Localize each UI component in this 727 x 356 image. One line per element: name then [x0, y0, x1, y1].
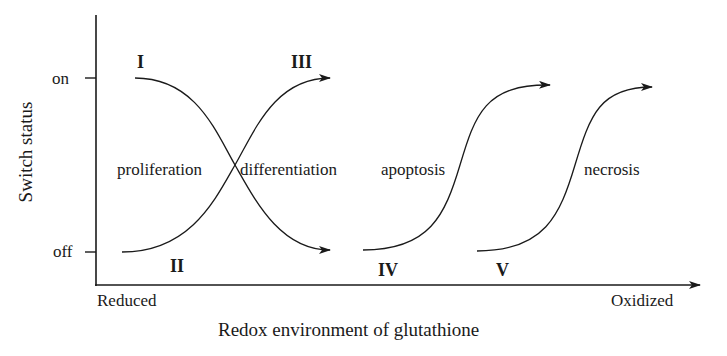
curve-label-IV: IV — [378, 261, 398, 279]
y-axis-label: Switch status — [15, 102, 37, 203]
curve-label-I: I — [137, 53, 144, 71]
x-axis-label: Redox environment of glutathione — [218, 320, 479, 339]
x-axis-left-end: Reduced — [97, 292, 156, 309]
state-proliferation: proliferation — [117, 161, 202, 178]
x-axis-right-end: Oxidized — [611, 292, 673, 309]
curve-label-III: III — [291, 53, 312, 71]
state-apoptosis: apoptosis — [381, 161, 445, 178]
tick-label-off: off — [53, 243, 73, 260]
curve-label-V: V — [496, 261, 509, 279]
state-differentiation: differentiation — [240, 161, 337, 178]
state-necrosis: necrosis — [584, 161, 640, 178]
curve-label-II: II — [170, 257, 184, 275]
tick-label-on: on — [52, 70, 69, 87]
